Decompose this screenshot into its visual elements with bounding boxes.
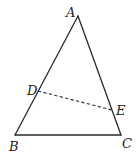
label-B: B [8,139,19,154]
label-D: D [26,83,38,98]
segment-AB [15,16,78,135]
triangle-diagram: A B C D E [0,0,137,159]
label-E: E [115,103,126,118]
segment-DE-dashed [38,91,112,110]
label-A: A [65,5,75,20]
segment-AC [78,16,121,135]
label-C: C [122,136,132,151]
